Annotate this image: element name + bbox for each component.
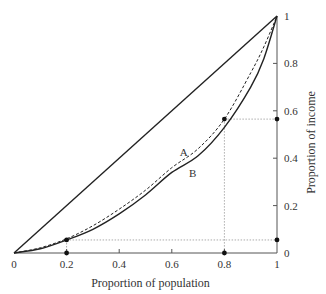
x-tick-label: 0.6 (165, 258, 179, 270)
y-tick-label: 0 (284, 247, 290, 259)
x-tick-label: 0 (11, 258, 17, 270)
lorenz-chart: 00.20.40.60.8100.20.40.60.81 AB Proporti… (0, 0, 326, 294)
x-tick-label: 0.4 (112, 258, 126, 270)
curve-label-b: B (189, 167, 196, 179)
y-tick-label: 0.2 (284, 200, 298, 212)
y-tick-label: 0.8 (284, 57, 298, 69)
y-tick-label: 1 (284, 10, 290, 22)
series-line-of-equality (14, 16, 277, 253)
y-tick-label: 0.4 (284, 152, 298, 164)
curve-label-a: A (180, 146, 188, 158)
x-axis-marker (222, 251, 227, 256)
series (14, 16, 277, 253)
curve-point-marker (222, 117, 227, 122)
y-axis-title: Proportion of income (304, 91, 318, 194)
y-axis-marker (275, 117, 280, 122)
x-tick-label: 0.8 (218, 258, 232, 270)
guide-lines (67, 119, 277, 253)
x-axis-title: Proportion of population (91, 276, 210, 290)
ticks: 00.20.40.60.8100.20.40.60.81 (11, 10, 298, 270)
x-axis-marker (64, 251, 69, 256)
x-tick-label: 1 (274, 258, 280, 270)
y-tick-label: 0.6 (284, 105, 298, 117)
curve-point-marker (64, 238, 69, 243)
y-axis-marker (275, 238, 280, 243)
markers (64, 117, 279, 256)
x-tick-label: 0.2 (60, 258, 74, 270)
